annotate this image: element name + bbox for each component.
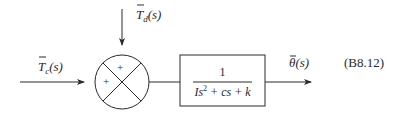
- output-label: θ(s): [289, 55, 309, 70]
- control-label: Tc(s): [38, 59, 63, 76]
- transfer-numerator: 1: [220, 65, 226, 79]
- equation-number: (B8.12): [344, 55, 384, 70]
- control-input: Tc(s): [20, 57, 84, 82]
- left-plus-sign: +: [103, 75, 109, 87]
- output: θ(s): [265, 55, 311, 82]
- disturbance-input: Td(s): [122, 5, 161, 45]
- transfer-denominator: Is2 + cs + k: [193, 84, 251, 99]
- disturbance-label: Td(s): [136, 7, 161, 24]
- block-diagram: Td(s) Tc(s) + + 1 Is2 + cs + k θ(s): [0, 0, 408, 115]
- top-plus-sign: +: [117, 61, 123, 73]
- transfer-function-block: 1 Is2 + cs + k: [180, 55, 265, 106]
- summing-junction: + +: [95, 55, 149, 109]
